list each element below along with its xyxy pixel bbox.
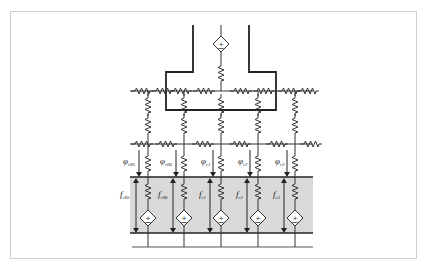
phi-label-r1: φr1	[201, 156, 210, 167]
phi-label-r2: φr2	[238, 156, 248, 167]
circuit-diagram: +	[0, 0, 428, 268]
phi-label-r3: φr3	[275, 156, 285, 167]
top-source-icon	[213, 36, 229, 52]
f-label-r05: fr05	[120, 189, 130, 200]
phi-label-r05: φr05	[123, 156, 135, 167]
phi-label-r06: φr06	[160, 156, 172, 167]
